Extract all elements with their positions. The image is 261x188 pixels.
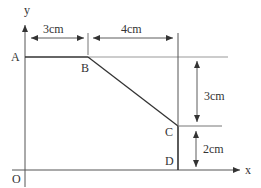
y-axis-label: y xyxy=(24,3,30,17)
x-axis-label: x xyxy=(245,163,251,177)
point-d-label: D xyxy=(165,154,174,168)
dimension-bd-label: 4cm xyxy=(121,22,142,36)
dimension-bc-drop-label: 3cm xyxy=(204,89,225,103)
dimension-ab-label: 3cm xyxy=(43,22,64,36)
origin-label: O xyxy=(12,172,21,186)
point-a-label: A xyxy=(11,50,20,64)
point-c-label: C xyxy=(165,125,173,139)
dimension-cd-label: 2cm xyxy=(203,142,224,156)
point-b-label: B xyxy=(81,61,89,75)
segment-bc xyxy=(88,57,178,126)
path-diagram: y x O A B C D 3cm 4 xyxy=(0,0,261,188)
